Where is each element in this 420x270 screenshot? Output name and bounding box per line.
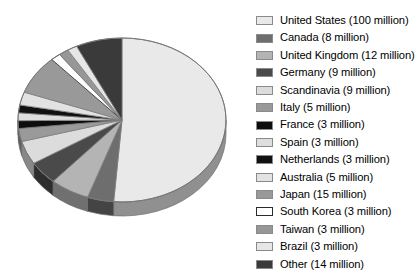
legend-item[interactable]: Australia (5 million) [256,169,420,186]
legend-swatch-icon [256,242,273,251]
legend-swatch-icon [256,34,273,43]
legend-swatch-icon [256,103,273,112]
legend-item-label: Australia (5 million) [280,172,373,183]
legend-swatch-icon [256,260,273,269]
legend-item[interactable]: Spain (3 million) [256,134,420,151]
legend-item-label: Scandinavia (9 million) [280,85,390,96]
legend-item-label: United Kingdom (12 million) [280,50,415,61]
legend-item[interactable]: South Korea (3 million) [256,203,420,220]
legend-swatch-icon [256,121,273,130]
legend-item-label: Netherlands (3 million) [280,154,390,165]
legend-swatch-icon [256,86,273,95]
legend-swatch-icon [256,190,273,199]
legend-swatch-icon [256,68,273,77]
pie-chart-figure: United States (100 million)Canada (8 mil… [0,0,420,270]
legend-item-label: Japan (15 million) [280,189,367,200]
legend-item-label: Italy (5 million) [280,102,350,113]
legend-item-label: Spain (3 million) [280,137,359,148]
legend-item-label: Taiwan (3 million) [280,224,365,235]
legend-item[interactable]: Netherlands (3 million) [256,151,420,168]
legend-swatch-icon [256,51,273,60]
legend-item-label: Germany (9 million) [280,67,376,78]
legend-item-label: Canada (8 million) [280,32,369,43]
legend-item[interactable]: France (3 million) [256,116,420,133]
pie-chart-svg [0,0,250,270]
chart-legend: United States (100 million)Canada (8 mil… [256,12,420,270]
legend-item-label: United States (100 million) [280,15,409,26]
legend-item-label: France (3 million) [280,119,365,130]
legend-item[interactable]: Other (14 million) [256,255,420,270]
legend-item-label: South Korea (3 million) [280,206,392,217]
legend-item[interactable]: United States (100 million) [256,12,420,29]
legend-swatch-icon [256,225,273,234]
legend-item-label: Brazil (3 million) [280,241,358,252]
legend-swatch-icon [256,155,273,164]
legend-item[interactable]: Japan (15 million) [256,186,420,203]
pie-chart-graphic [0,0,250,270]
legend-swatch-icon [256,207,273,216]
legend-item[interactable]: Germany (9 million) [256,64,420,81]
legend-swatch-icon [256,16,273,25]
legend-item[interactable]: Italy (5 million) [256,99,420,116]
legend-item[interactable]: Taiwan (3 million) [256,221,420,238]
legend-swatch-icon [256,173,273,182]
legend-item[interactable]: Brazil (3 million) [256,238,420,255]
legend-item[interactable]: Scandinavia (9 million) [256,82,420,99]
legend-item-label: Other (14 million) [280,259,364,270]
legend-swatch-icon [256,138,273,147]
legend-item[interactable]: Canada (8 million) [256,29,420,46]
legend-item[interactable]: United Kingdom (12 million) [256,47,420,64]
